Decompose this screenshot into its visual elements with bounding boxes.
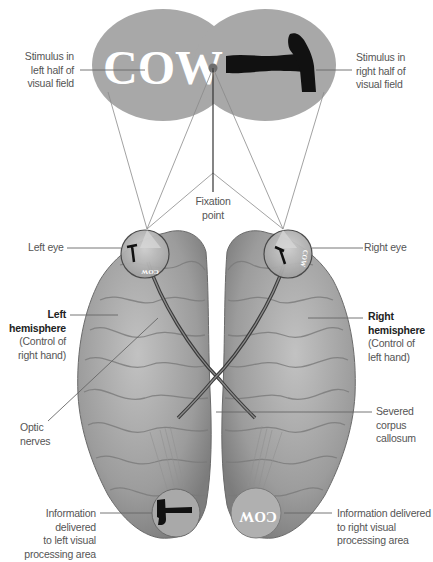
info-right-label: Information delivered to right visual pr… bbox=[337, 507, 433, 548]
right-eye-label: Right eye bbox=[364, 241, 424, 255]
left-eye-inverted-word: COW bbox=[141, 268, 159, 276]
stimulus-left-label: Stimulus in left half of visual field bbox=[2, 50, 74, 91]
fixation-point-label: Fixation point bbox=[183, 195, 243, 222]
cow-stimulus-word: COW bbox=[103, 41, 223, 94]
left-eye: COW bbox=[121, 230, 169, 278]
right-processing-area: COW bbox=[231, 488, 281, 538]
stimulus-right-label: Stimulus in right half of visual field bbox=[356, 51, 432, 92]
optic-nerves-label: Optic nerves bbox=[20, 421, 70, 448]
right-eye: COW bbox=[264, 230, 312, 278]
processed-cow-word: COW bbox=[239, 509, 277, 525]
left-hemisphere-label: Left hemisphere (Control of right hand) bbox=[2, 308, 66, 362]
info-left-label: Information delivered to left visual pro… bbox=[4, 507, 96, 561]
corpus-callosum-label: Severed corpus callosum bbox=[376, 405, 432, 446]
split-brain-diagram: COW bbox=[0, 0, 433, 562]
left-eye-label: Left eye bbox=[28, 241, 78, 255]
left-processing-area bbox=[152, 489, 200, 537]
right-hemisphere-label: Right hemisphere (Control of left hand) bbox=[368, 310, 432, 364]
